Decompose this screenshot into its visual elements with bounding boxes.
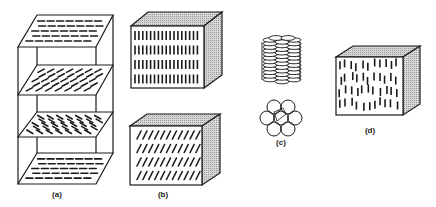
panel-c-disc-stack xyxy=(262,36,301,84)
label-b: (b) xyxy=(158,191,168,199)
label-a: (a) xyxy=(52,191,62,199)
panel-d-cube-nematic xyxy=(336,46,420,115)
panel-c-hex-cluster xyxy=(260,100,302,136)
label-d: (d) xyxy=(365,127,375,135)
liquid-crystal-diagram xyxy=(0,0,436,207)
panel-b-cube-vertical xyxy=(131,12,222,88)
label-c: (c) xyxy=(276,139,286,147)
